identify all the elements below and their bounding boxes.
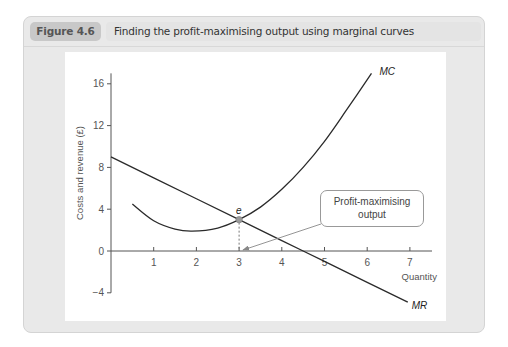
y-axis-label: Costs and revenue (£)	[74, 126, 85, 220]
y-tick-label: 16	[93, 78, 105, 89]
x-tick-label: 2	[194, 257, 200, 268]
x-tick-label: 1	[151, 257, 157, 268]
callout-box: Profit-maximising output	[320, 190, 424, 227]
y-tick-label: 4	[98, 204, 104, 215]
x-axis-label: Quantity	[402, 271, 438, 282]
y-tick-label: 0	[98, 246, 104, 257]
axes	[111, 73, 432, 292]
mr-label: MR	[412, 300, 428, 311]
equilibrium-point	[236, 216, 242, 222]
x-tick-label: 6	[364, 257, 370, 268]
x-tick-label: 7	[407, 257, 413, 268]
callout-line-2: output	[321, 208, 423, 221]
mc-label: MC	[379, 66, 395, 77]
y-tick-label: 12	[93, 120, 105, 131]
mr-curve	[111, 157, 408, 302]
chart: −40481216 1234567 Costs and revenue (£) …	[0, 0, 508, 347]
x-tick-label: 3	[236, 257, 242, 268]
y-tick-label: −4	[93, 287, 105, 298]
y-tick-label: 8	[98, 162, 104, 173]
x-tick-label: 4	[279, 257, 285, 268]
point-e-label: e	[236, 205, 242, 216]
callout-line-1: Profit-maximising	[321, 195, 423, 208]
y-axis-ticks: −40481216	[93, 78, 111, 298]
x-axis-ticks: 1234567	[151, 247, 413, 268]
